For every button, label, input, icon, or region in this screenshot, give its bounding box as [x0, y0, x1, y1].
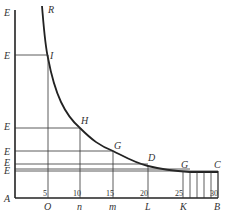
- tick-15: 15: [106, 189, 114, 198]
- label-E-top: E: [3, 7, 10, 18]
- label-m: m: [109, 201, 116, 212]
- label-B: B: [214, 201, 220, 212]
- tick-5: 5: [43, 189, 47, 198]
- label-E: E: [3, 146, 10, 157]
- label-H: H: [80, 115, 89, 126]
- hyperbola-diagram: R I H G D G C E E E E E E 5 10 15 20 25 …: [0, 0, 226, 220]
- tick-10: 10: [73, 189, 81, 198]
- label-R: R: [47, 4, 54, 15]
- label-O: O: [44, 201, 51, 212]
- label-K: K: [179, 201, 188, 212]
- curve-R-to-C: [42, 6, 218, 172]
- label-E: E: [3, 50, 10, 61]
- label-D: D: [147, 152, 156, 163]
- label-G1: G: [114, 140, 121, 151]
- label-E: E: [3, 121, 10, 132]
- tick-20: 20: [140, 189, 148, 198]
- label-A: A: [3, 193, 11, 204]
- tick-30: 30: [210, 189, 218, 198]
- label-I: I: [49, 50, 54, 61]
- label-E: E: [3, 165, 10, 176]
- label-n: n: [77, 201, 82, 212]
- label-G2: G: [181, 159, 188, 170]
- label-L: L: [144, 201, 151, 212]
- label-C: C: [214, 159, 221, 170]
- tick-25: 25: [175, 189, 183, 198]
